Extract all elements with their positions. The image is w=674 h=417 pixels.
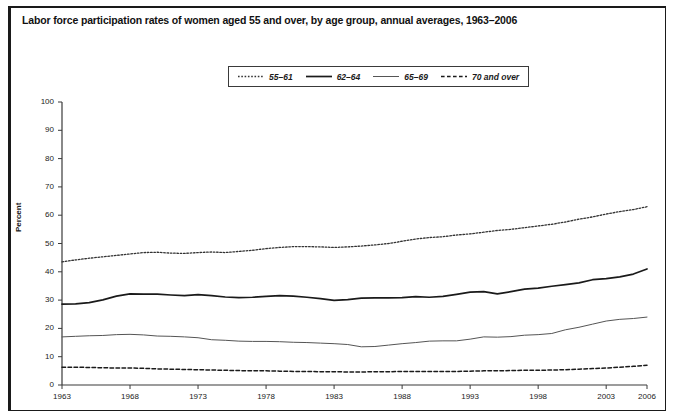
x-tick-label: 1983 (317, 392, 351, 401)
legend-line-swatch (306, 72, 332, 81)
y-tick-label: 100 (34, 97, 54, 106)
y-tick-label: 40 (34, 267, 54, 276)
figure-border-top-accent (8, 6, 666, 8)
figure-border-left-accent (8, 6, 11, 411)
x-tick-label: 1978 (249, 392, 283, 401)
y-tick-label: 0 (34, 380, 54, 389)
x-tick-label: 1968 (113, 392, 147, 401)
legend-item-55-61: 55–61 (238, 72, 293, 82)
x-tick-label: 1988 (385, 392, 419, 401)
y-tick-label: 70 (34, 182, 54, 191)
x-tick-label: 1998 (521, 392, 555, 401)
legend-item-label: 55–61 (269, 72, 293, 82)
page-title: Labor force participation rates of women… (22, 14, 517, 26)
legend-item-62-64: 62–64 (306, 72, 361, 82)
legend-item-label: 62–64 (337, 72, 361, 82)
legend-line-swatch (441, 72, 467, 81)
y-tick-label: 90 (34, 125, 54, 134)
x-tick-label: 2003 (589, 392, 623, 401)
y-tick-label: 80 (34, 154, 54, 163)
x-tick-label: 1963 (45, 392, 79, 401)
x-tick-label: 1993 (453, 392, 487, 401)
legend-line-swatch (373, 72, 399, 81)
figure-page: Labor force participation rates of women… (0, 0, 674, 417)
legend-line-swatch (238, 72, 264, 81)
legend-item-65-69: 65–69 (373, 72, 428, 82)
y-axis-label: Percent (14, 203, 23, 232)
x-tick-label: 2006 (630, 392, 664, 401)
legend-item-label: 65–69 (404, 72, 428, 82)
legend-item-70-and-over: 70 and over (441, 72, 519, 82)
y-tick-label: 20 (34, 323, 54, 332)
chart-legend: 55–6162–6465–6970 and over (228, 66, 529, 87)
y-tick-label: 60 (34, 210, 54, 219)
y-tick-label: 50 (34, 239, 54, 248)
legend-item-label: 70 and over (472, 72, 519, 82)
x-tick-label: 1973 (181, 392, 215, 401)
y-tick-label: 30 (34, 295, 54, 304)
y-tick-label: 10 (34, 352, 54, 361)
